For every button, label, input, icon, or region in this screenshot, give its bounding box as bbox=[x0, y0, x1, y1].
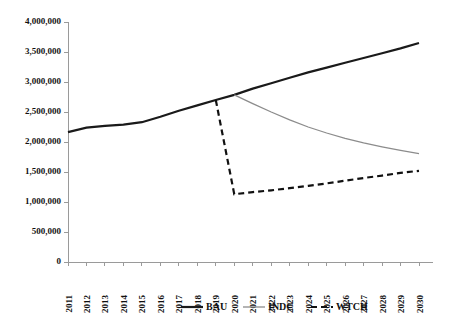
y-tick-label: 1,000,000 bbox=[25, 196, 62, 206]
x-tick-label: 2013 bbox=[100, 295, 110, 314]
series-line-wtch bbox=[216, 100, 419, 194]
chart-container: 0500,0001,000,0001,500,0002,000,0002,500… bbox=[0, 0, 453, 322]
x-tick-label: 2030 bbox=[415, 295, 425, 314]
line-chart: 0500,0001,000,0001,500,0002,000,0002,500… bbox=[0, 0, 453, 322]
x-tick-label: 2025 bbox=[322, 295, 332, 314]
x-tick-label: 2015 bbox=[137, 295, 147, 314]
x-tick-label: 2014 bbox=[119, 295, 129, 314]
plot-series-group bbox=[68, 43, 419, 194]
legend-label-wtch: WTCH bbox=[336, 301, 368, 312]
x-tick-label: 2028 bbox=[378, 295, 388, 314]
y-tick-label: 1,500,000 bbox=[25, 166, 62, 176]
chart-legend: BAUINDCWTCH bbox=[181, 301, 368, 312]
series-line-indc bbox=[234, 95, 419, 154]
y-tick-label: 0 bbox=[57, 256, 62, 266]
y-tick-label: 3,000,000 bbox=[25, 76, 62, 86]
series-line-bau bbox=[68, 43, 419, 132]
x-tick-label: 2024 bbox=[304, 295, 314, 314]
y-tick-label: 500,000 bbox=[32, 226, 62, 236]
legend-label-bau: BAU bbox=[206, 301, 227, 312]
x-axis: 2011201220132014201520162017201820192020… bbox=[64, 262, 434, 313]
x-tick-label: 2020 bbox=[230, 295, 240, 314]
x-tick-label: 2021 bbox=[248, 295, 258, 314]
y-tick-label: 2,500,000 bbox=[25, 106, 62, 116]
y-tick-label: 4,000,000 bbox=[25, 16, 62, 26]
y-tick-label: 2,000,000 bbox=[25, 136, 62, 146]
y-tick-label: 3,500,000 bbox=[25, 46, 62, 56]
y-axis: 0500,0001,000,0001,500,0002,000,0002,500… bbox=[25, 16, 68, 266]
x-tick-label: 2016 bbox=[156, 295, 166, 314]
x-tick-label: 2029 bbox=[396, 295, 406, 314]
x-tick-label: 2018 bbox=[193, 295, 203, 314]
legend-label-indc: INDC bbox=[268, 301, 294, 312]
x-tick-label: 2011 bbox=[64, 295, 74, 313]
x-tick-label: 2017 bbox=[174, 295, 184, 314]
x-tick-label: 2012 bbox=[82, 295, 92, 314]
